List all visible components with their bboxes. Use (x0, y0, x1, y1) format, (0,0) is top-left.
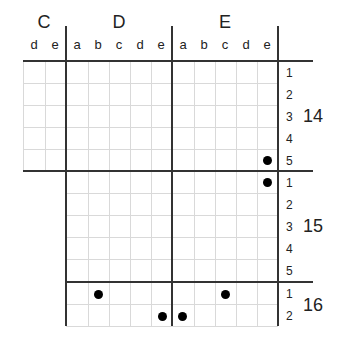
row-label: 3 (286, 110, 293, 124)
column-label: a (67, 37, 87, 52)
row-label: 1 (286, 176, 293, 190)
grid-line (130, 61, 131, 326)
grid-line (236, 61, 237, 326)
grid-line (109, 61, 110, 326)
row-label: 5 (286, 154, 293, 168)
dot-marker (263, 156, 272, 165)
grid-line (215, 61, 216, 326)
row-label: 1 (286, 287, 293, 301)
column-label: e (151, 37, 171, 52)
block-label-15: 15 (303, 216, 323, 237)
column-label: b (88, 37, 108, 52)
column-label: e (257, 37, 277, 52)
dot-marker (221, 290, 230, 299)
grid-line (88, 61, 89, 326)
block-separator (66, 281, 313, 283)
dot-marker (263, 178, 272, 187)
group-separator (277, 26, 279, 326)
grid-line (23, 61, 24, 171)
group-label-e: E (205, 12, 245, 33)
row-label: 4 (286, 132, 293, 146)
column-label: c (109, 37, 129, 52)
column-label: d (130, 37, 150, 52)
grid-line (257, 61, 258, 326)
grid-line (45, 61, 46, 171)
row-label: 2 (286, 198, 293, 212)
row-label: 1 (286, 66, 293, 80)
grid-line (66, 326, 278, 327)
group-separator (171, 26, 173, 326)
group-separator (65, 26, 67, 326)
row-label: 5 (286, 264, 293, 278)
dot-marker (158, 312, 167, 321)
row-label: 2 (286, 309, 293, 323)
block-label-16: 16 (303, 295, 323, 316)
block-label-14: 14 (303, 106, 323, 127)
row-label: 2 (286, 88, 293, 102)
column-label: c (215, 37, 235, 52)
column-label: e (45, 37, 65, 52)
row-label: 3 (286, 220, 293, 234)
row-label: 4 (286, 242, 293, 256)
group-label-c: C (24, 12, 64, 33)
dot-marker (94, 290, 103, 299)
column-label: b (194, 37, 214, 52)
grid-line (151, 61, 152, 326)
column-label: d (24, 37, 44, 52)
column-label: a (173, 37, 193, 52)
group-label-d: D (99, 12, 139, 33)
grid-line (194, 61, 195, 326)
column-label: d (236, 37, 256, 52)
dot-marker (178, 312, 187, 321)
